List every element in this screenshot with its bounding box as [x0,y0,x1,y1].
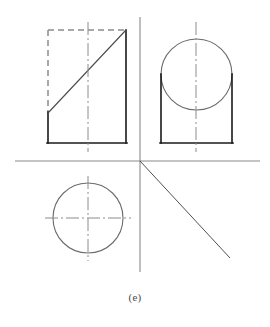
projection-axes-group [15,17,260,272]
front-view-group [47,22,127,152]
orthographic-projection-drawing [0,0,270,327]
top-view-group [45,176,131,261]
miter-line [140,161,230,258]
technical-drawing-figure: (e) [0,0,270,327]
side-view-group [160,22,233,152]
figure-caption: (e) [0,291,270,303]
front-view-inclined-cut-edge [48,30,126,113]
